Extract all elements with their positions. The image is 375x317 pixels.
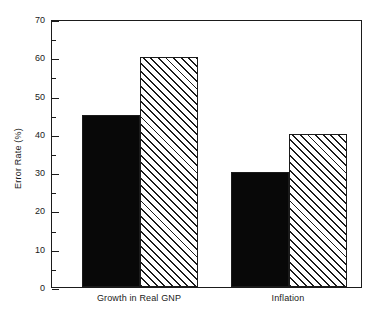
x-axis-category-label: Growth in Real GNP xyxy=(97,293,181,303)
y-axis-tick-minor xyxy=(52,270,56,271)
x-axis-category-label: Inflation xyxy=(272,293,305,303)
bar-solid xyxy=(82,115,140,287)
y-axis-tick-major xyxy=(52,98,59,99)
y-axis-tick-minor xyxy=(52,155,56,156)
bar-hatched xyxy=(289,134,347,287)
y-axis-tick-label: 30 xyxy=(5,168,45,178)
y-axis-tick-major xyxy=(52,212,59,213)
y-axis-tick-major xyxy=(52,59,59,60)
y-axis-tick-label: 20 xyxy=(5,206,45,216)
y-axis-tick-minor xyxy=(52,117,56,118)
bar-hatched xyxy=(140,57,198,287)
y-axis-tick-label: 0 xyxy=(5,283,45,293)
y-axis-tick-major xyxy=(52,289,59,290)
y-axis-tick-label: 50 xyxy=(5,92,45,102)
y-axis-tick-major xyxy=(52,21,59,22)
y-axis-title: Error Rate (%) xyxy=(8,0,28,317)
y-axis-tick-minor xyxy=(52,40,56,41)
bar-chart-figure: Error Rate (%) 010203040506070 Growth in… xyxy=(0,0,375,317)
y-axis-tick-minor xyxy=(52,193,56,194)
y-axis-tick-major xyxy=(52,251,59,252)
y-axis-tick-label: 60 xyxy=(5,53,45,63)
y-axis-tick-minor xyxy=(52,232,56,233)
y-axis-tick-minor xyxy=(52,78,56,79)
bar-solid xyxy=(231,172,289,287)
plot-area xyxy=(51,20,362,288)
y-axis-tick-label: 70 xyxy=(5,15,45,25)
y-axis-tick-label: 10 xyxy=(5,245,45,255)
y-axis-tick-major xyxy=(52,136,59,137)
y-axis-tick-label: 40 xyxy=(5,130,45,140)
y-axis-tick-major xyxy=(52,174,59,175)
